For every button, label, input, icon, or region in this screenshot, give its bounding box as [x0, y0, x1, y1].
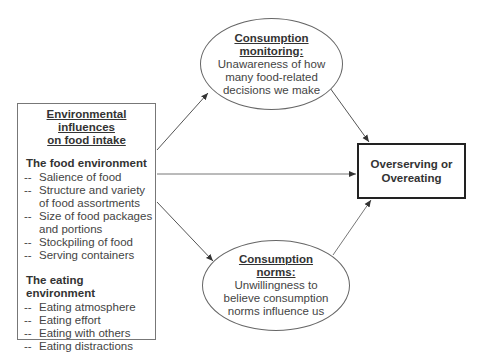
dash-bullet: --: [24, 171, 39, 184]
ellipse-heading: Consumption: [234, 32, 308, 45]
item-text: Eating atmosphere: [39, 301, 136, 313]
food-environment-heading: The food environment: [26, 157, 155, 170]
list-item: --Size of food packages and portions: [24, 210, 155, 236]
item-text: Eating distractions: [39, 340, 133, 352]
ellipse-body: Unwillingness to: [234, 279, 317, 292]
dash-bullet: --: [24, 340, 39, 353]
overserving-overeating-box: Overserving or Overeating: [357, 143, 466, 199]
eating-environment-heading: The eating environment: [26, 274, 155, 300]
ellipse-body: many food-related: [225, 71, 318, 84]
item-text: Salience of food: [39, 171, 121, 183]
ellipse-body: Unawareness of how: [218, 58, 325, 71]
arrow-monitoring-to-outcome: [330, 88, 369, 142]
dash-bullet: --: [24, 314, 39, 327]
outcome-line-2: Overeating: [381, 171, 441, 185]
consumption-monitoring-ellipse: Consumption monitoring: Unawareness of h…: [200, 18, 343, 110]
list-item: --Eating atmosphere: [24, 301, 155, 314]
item-text: Eating with others: [39, 327, 130, 339]
item-text: Eating effort: [39, 314, 101, 326]
dash-bullet: --: [24, 301, 39, 314]
food-environment-list: --Salience of food --Structure and varie…: [18, 171, 155, 262]
item-text: Serving containers: [39, 249, 134, 261]
ellipse-heading: Consumption: [239, 253, 313, 266]
list-item: --Eating with others: [24, 327, 155, 340]
item-text: Structure and variety of food assortment…: [39, 184, 145, 209]
outcome-line-1: Overserving or: [371, 157, 453, 171]
environmental-influences-box: Environmental influences on food intake …: [17, 103, 156, 340]
list-item: --Structure and variety of food assortme…: [24, 184, 155, 210]
ellipse-heading: monitoring:: [240, 45, 304, 58]
list-item: --Eating effort: [24, 314, 155, 327]
eating-environment-list: --Eating atmosphere --Eating effort --Ea…: [18, 301, 155, 353]
item-text: Size of food packages and portions: [39, 210, 152, 235]
arrow-env-to-norms: [157, 202, 213, 261]
ellipse-body: decisions we make: [223, 84, 320, 97]
list-item: --Stockpiling of food: [24, 236, 155, 249]
title-line-2: on food intake: [18, 134, 155, 147]
arrow-env-to-monitoring: [157, 93, 208, 150]
consumption-norms-ellipse: Consumption norms: Unwillingness to beli…: [202, 240, 350, 331]
list-item: --Serving containers: [24, 249, 155, 262]
ellipse-heading: norms:: [257, 266, 296, 279]
dash-bullet: --: [24, 184, 39, 197]
title-line-1: Environmental influences: [18, 108, 155, 134]
ellipse-body: believe consumption: [224, 292, 329, 305]
dash-bullet: --: [24, 249, 39, 262]
dash-bullet: --: [24, 210, 39, 223]
ellipse-body: norms influence us: [228, 305, 325, 318]
dash-bullet: --: [24, 236, 39, 249]
list-item: --Eating distractions: [24, 340, 155, 353]
box-title: Environmental influences on food intake: [18, 108, 155, 147]
list-item: --Salience of food: [24, 171, 155, 184]
arrow-norms-to-outcome: [333, 200, 371, 255]
dash-bullet: --: [24, 327, 39, 340]
item-text: Stockpiling of food: [39, 236, 133, 248]
